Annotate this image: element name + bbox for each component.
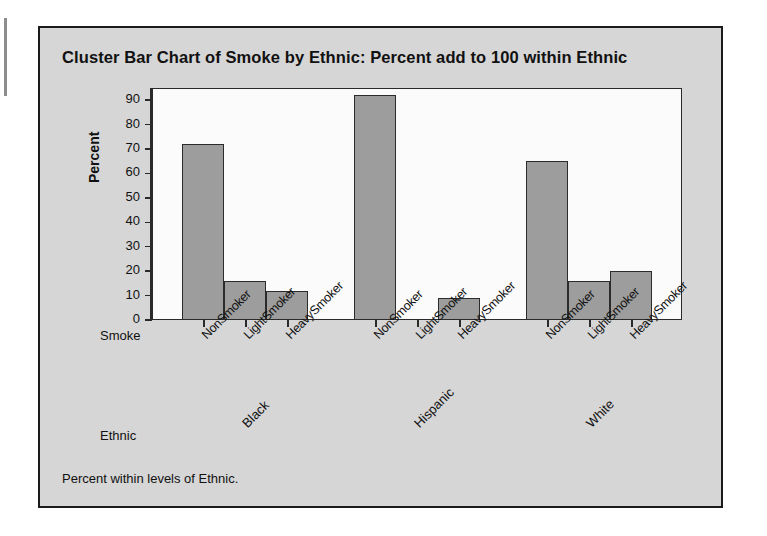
y-axis-tick [145,246,152,248]
bar-white-nonsmoker [526,161,568,320]
y-axis-tick [145,270,152,272]
y-axis-tick [145,124,152,126]
y-axis-tick-label: 30 [106,238,140,253]
y-axis-tick [145,319,152,321]
group-label: Black [239,398,272,431]
y-axis-tick [145,295,152,297]
plot-region [152,88,682,320]
bar-black-nonsmoker [182,144,224,320]
y-axis-tick-label: 20 [106,262,140,277]
y-axis-tick [145,197,152,199]
y-axis-tick-label: 60 [106,164,140,179]
y-axis-tick [145,173,152,175]
scan-artifact-mark [4,18,7,96]
y-axis-tick-label: 40 [106,213,140,228]
y-axis-tick-label: 50 [106,189,140,204]
group-label: Hispanic [411,385,457,431]
y-axis-tick-label: 70 [106,140,140,155]
bar-hispanic-nonsmoker [354,95,396,320]
y-axis-tick [145,99,152,101]
y-axis-tick [145,148,152,150]
y-axis-title: Percent [86,132,102,183]
y-axis-tick-label: 0 [106,311,140,326]
y-axis-tick-label: 90 [106,91,140,106]
group-label: White [583,396,617,430]
group-axis-name: Ethnic [100,428,136,443]
bars-layer [152,88,682,320]
chart-title: Cluster Bar Chart of Smoke by Ethnic: Pe… [62,48,702,67]
chart-panel: Cluster Bar Chart of Smoke by Ethnic: Pe… [38,26,723,508]
chart-footnote: Percent within levels of Ethnic. [62,471,238,486]
footer-divider [50,460,713,461]
x-axis-name: Smoke [100,328,140,343]
y-axis-tick [145,222,152,224]
y-axis-tick-label: 80 [106,116,140,131]
chart-page: Cluster Bar Chart of Smoke by Ethnic: Pe… [0,0,767,536]
y-axis-tick-label: 10 [106,287,140,302]
